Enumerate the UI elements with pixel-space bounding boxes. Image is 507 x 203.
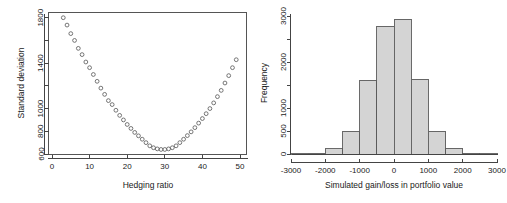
scatter-point [178, 141, 182, 145]
figure-container: 600 800 1000 1400 1800 Standard deviatio… [0, 0, 507, 203]
scatter-point [152, 146, 156, 150]
scatter-point [110, 103, 114, 107]
histogram-bar [463, 153, 480, 154]
histogram-bar [308, 153, 325, 154]
scatter-point [185, 134, 189, 138]
scatter-point [125, 123, 129, 127]
x-tick-label-10: 10 [85, 162, 94, 171]
x-tick-label-50: 50 [236, 162, 245, 171]
scatter-point [148, 144, 152, 148]
y-tick-label-1400: 1400 [37, 54, 46, 72]
x-axis: 0 10 20 30 40 50 Hedging ratio [48, 155, 248, 191]
x-tick-label-0: 0 [50, 162, 55, 171]
hist-x-tick-label-0: 0 [392, 166, 397, 175]
histogram-panel: 0 500 1000 2000 3000 Frequency [254, 0, 507, 203]
scatter-point [159, 148, 163, 152]
hist-x-tick-label-neg2000: -2000 [315, 166, 336, 175]
scatter-point [216, 95, 220, 99]
scatter-point [99, 86, 103, 90]
scatter-point [61, 16, 65, 20]
y-tick-label-1800: 1800 [37, 8, 46, 26]
scatter-point [155, 147, 159, 151]
histogram-bar [343, 131, 360, 154]
scatter-point [95, 79, 99, 83]
scatter-point [69, 32, 73, 36]
scatter-point [182, 137, 186, 141]
scatter-point [219, 88, 223, 92]
scatter-point [144, 141, 148, 145]
scatter-point [234, 58, 238, 62]
scatter-point [122, 118, 126, 122]
scatter-point [170, 146, 174, 150]
hist-x-tick-label-neg3000: -3000 [281, 166, 302, 175]
scatter-point [73, 39, 77, 43]
scatter-point [227, 74, 231, 78]
x-axis-ticks [52, 155, 240, 159]
scatter-point [208, 107, 212, 111]
x-axis-title: Hedging ratio [123, 180, 174, 190]
hist-x-axis-title: Simulated gain/loss in portfolio value [325, 180, 463, 190]
scatter-point [114, 108, 118, 112]
scatter-point [201, 117, 205, 121]
y-tick-label-1000: 1000 [37, 99, 46, 117]
hist-y-tick-label-0: 0 [279, 151, 288, 156]
y-axis: 600 800 1000 1400 1800 Standard deviatio… [16, 8, 49, 160]
histogram-bar [446, 148, 463, 154]
y-axis-title: Standard deviation [16, 47, 26, 118]
scatter-point [212, 101, 216, 105]
histogram-bar [377, 26, 394, 154]
histogram-bar [428, 131, 445, 154]
scatter-point [129, 127, 133, 131]
scatter-point [137, 134, 141, 138]
histogram-bar [411, 79, 428, 154]
hist-x-axis-ticks [291, 159, 497, 163]
scatter-point [76, 46, 80, 50]
scatter-point [65, 23, 69, 27]
scatter-point [88, 66, 92, 70]
scatter-point [189, 130, 193, 134]
hist-y-tick-label-1000: 1000 [279, 99, 288, 117]
hist-x-tick-label-2000: 2000 [454, 166, 472, 175]
hist-y-axis-title: Frequency [259, 62, 269, 103]
scatter-point [197, 121, 201, 125]
hist-y-tick-label-500: 500 [279, 124, 288, 138]
histogram-svg: 0 500 1000 2000 3000 Frequency [254, 0, 507, 203]
scatter-point [204, 112, 208, 116]
hist-x-tick-label-neg1000: -1000 [349, 166, 370, 175]
scatter-point [103, 92, 107, 96]
scatter-point [167, 147, 171, 151]
scatter-point [193, 126, 197, 130]
scatter-point [231, 66, 235, 70]
hist-x-tick-label-1000: 1000 [419, 166, 437, 175]
scatter-point [118, 113, 122, 117]
x-axis-tick-labels: 0 10 20 30 40 50 [50, 162, 245, 171]
scatter-point [163, 148, 167, 152]
y-tick-label-600: 600 [37, 147, 46, 161]
scatter-data-points [61, 16, 238, 152]
histogram-bars [291, 19, 497, 154]
y-tick-label-800: 800 [37, 124, 46, 138]
hist-y-axis-tick-labels: 0 500 1000 2000 3000 [279, 7, 288, 157]
scatter-point [80, 53, 84, 57]
scatter-plot-panel: 600 800 1000 1400 1800 Standard deviatio… [0, 0, 254, 203]
hist-y-axis: 0 500 1000 2000 3000 Frequency [259, 7, 291, 157]
histogram-bar [325, 149, 342, 154]
scatter-point [174, 144, 178, 148]
hist-y-tick-label-3000: 3000 [279, 7, 288, 25]
hist-y-tick-label-2000: 2000 [279, 53, 288, 71]
x-tick-label-40: 40 [198, 162, 207, 171]
x-tick-label-30: 30 [160, 162, 169, 171]
plot-box [49, 13, 247, 155]
scatter-point [133, 131, 137, 135]
hist-x-axis: -3000 -2000 -1000 0 1000 2000 3000 Simul… [281, 159, 507, 191]
scatter-point [84, 60, 88, 64]
x-tick-label-20: 20 [123, 162, 132, 171]
scatter-point [223, 81, 227, 85]
hist-x-axis-tick-labels: -3000 -2000 -1000 0 1000 2000 3000 [281, 166, 507, 175]
hist-x-tick-label-3000: 3000 [488, 166, 506, 175]
scatter-plot-svg: 600 800 1000 1400 1800 Standard deviatio… [0, 0, 254, 203]
scatter-point [107, 99, 111, 103]
histogram-bar [360, 80, 377, 154]
scatter-point [91, 73, 95, 77]
scatter-point [140, 137, 144, 141]
